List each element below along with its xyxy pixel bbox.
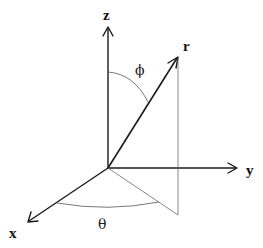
z-axis-label: z [103,7,110,23]
r-arrowhead-icon [168,57,178,68]
y-axis-label: y [246,162,254,178]
spherical-coordinates-diagram: z y x r ϕ θ [0,0,263,248]
x-axis [28,168,108,222]
theta-label: θ [98,216,106,232]
theta-arc [57,202,159,207]
x-axis-label: x [9,225,17,241]
z-axis [103,27,113,168]
r-vector-label: r [183,38,190,54]
y-axis [108,163,237,173]
phi-label: ϕ [135,62,145,78]
xy-projection-line [108,168,178,215]
